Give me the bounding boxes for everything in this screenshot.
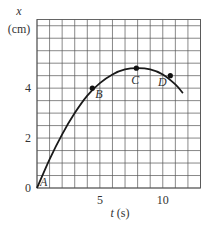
y-axis-unit: (cm) — [8, 22, 31, 36]
x-tick-label: 10 — [157, 193, 169, 207]
y-axis-variable: x — [15, 4, 22, 18]
point-d-marker — [168, 73, 173, 78]
x-tick-label: 5 — [97, 193, 103, 207]
x-axis-label: t (s) — [110, 206, 129, 220]
x-axis-variable: t — [110, 206, 114, 220]
point-c-label: C — [131, 73, 140, 87]
point-b-marker — [90, 86, 95, 91]
y-tick-labels: 024 — [25, 81, 31, 195]
y-tick-label: 0 — [25, 181, 31, 195]
x-axis-unit: (s) — [117, 206, 130, 220]
grid — [37, 20, 201, 189]
y-tick-label: 4 — [25, 81, 31, 95]
point-c-marker — [134, 66, 139, 71]
point-d-label: D — [157, 75, 167, 89]
position-time-graph: ABCD 024 510 x (cm) t (s) — [0, 0, 209, 228]
data-points: ABCD — [39, 66, 173, 189]
y-tick-label: 2 — [25, 131, 31, 145]
point-b-label: B — [95, 87, 103, 101]
x-tick-labels: 510 — [97, 193, 169, 207]
point-a-label: A — [39, 175, 48, 189]
